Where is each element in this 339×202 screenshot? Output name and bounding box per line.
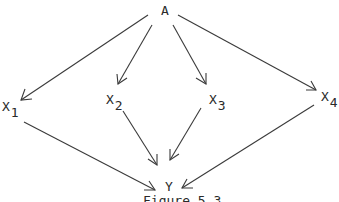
edge-x4-y (182, 105, 314, 188)
node-x1-label: X (2, 99, 10, 114)
node-x3-subscript: 3 (218, 98, 226, 113)
node-x2-subscript: 2 (115, 98, 123, 113)
node-y: Y (165, 180, 173, 193)
node-x4-subscript: 4 (330, 95, 338, 110)
edge-a-x4 (178, 15, 316, 90)
node-a: A (161, 4, 169, 17)
edge-a-x3 (173, 25, 206, 84)
edges-layer (0, 0, 339, 202)
edge-a-x2 (117, 25, 152, 84)
node-x3: X3 (209, 93, 226, 106)
node-x3-label: X (209, 92, 217, 107)
node-a-label: A (161, 3, 169, 18)
edge-x1-y (24, 122, 155, 190)
node-x2-label: X (106, 92, 114, 107)
edge-x3-y (170, 108, 201, 160)
node-x1-subscript: 1 (11, 105, 19, 120)
node-y-label: Y (165, 179, 173, 194)
node-x1: X1 (2, 100, 19, 113)
node-x4: X4 (321, 90, 338, 103)
edge-x2-y (123, 111, 157, 165)
node-x4-label: X (321, 89, 329, 104)
node-x2: X2 (106, 93, 123, 106)
figure-caption: Figure 5.3 (143, 194, 221, 202)
edge-a-x1 (21, 15, 148, 100)
diagram-canvas: A X1 X2 X3 X4 Y Figure 5.3 (0, 0, 339, 202)
